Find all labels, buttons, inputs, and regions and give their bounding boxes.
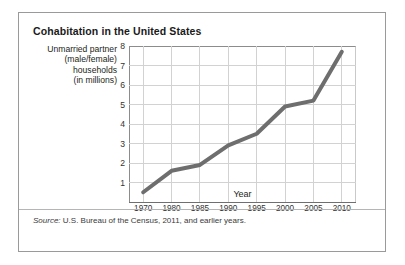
y-tick-label: 2 <box>120 159 125 168</box>
source-text: U.S. Bureau of the Census, 2011, and ear… <box>61 216 246 225</box>
y-tick-label: 8 <box>120 42 125 51</box>
chart-title: Cohabitation in the United States <box>33 25 201 37</box>
y-tick-label: 3 <box>120 139 125 148</box>
y-axis-title-line-1: Unmarried partner <box>23 44 117 54</box>
source-label: Source: <box>33 216 61 225</box>
y-tick-label: 6 <box>120 81 125 90</box>
figure-panel: Cohabitation in the United States Unmarr… <box>18 12 386 252</box>
data-series-line <box>143 52 342 192</box>
y-axis-title-line-2: (male/female) <box>23 54 117 64</box>
y-axis-title-line-4: (in millions) <box>23 75 117 85</box>
x-axis-line <box>129 202 356 203</box>
x-axis-title: Year <box>129 189 356 199</box>
y-tick-label: 1 <box>120 178 125 187</box>
y-tick-label: 5 <box>120 100 125 109</box>
y-tick-label: 7 <box>120 61 125 70</box>
line-chart-svg <box>129 46 356 202</box>
source-note: Source: U.S. Bureau of the Census, 2011,… <box>33 216 246 225</box>
y-axis-title: Unmarried partner (male/female) househol… <box>23 44 117 86</box>
y-axis-title-line-3: households <box>23 65 117 75</box>
y-tick-label: 4 <box>120 120 125 129</box>
plot-area: 12345678 1970198019851990199520002005201… <box>129 46 356 202</box>
source-divider <box>19 209 385 210</box>
